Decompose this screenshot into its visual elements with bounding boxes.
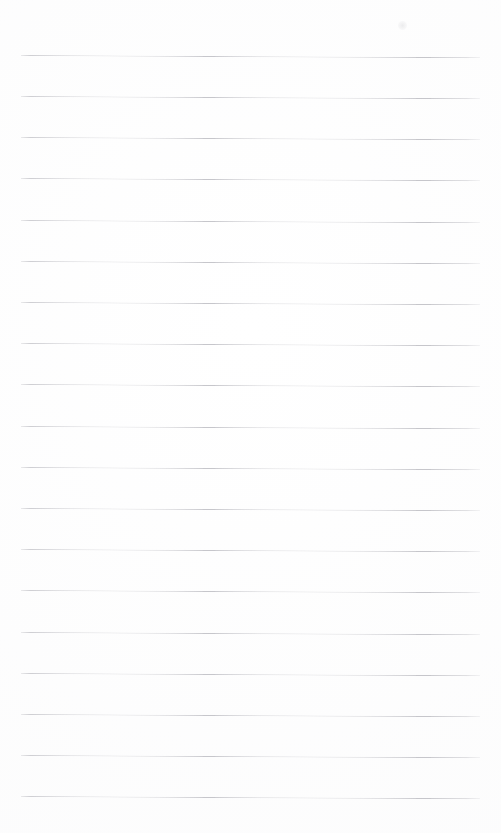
ruled-line[interactable]: [21, 220, 480, 223]
ruled-line[interactable]: [21, 632, 480, 635]
ruled-line[interactable]: [21, 261, 480, 264]
ruled-line[interactable]: [21, 137, 480, 140]
ruled-line[interactable]: [21, 178, 480, 181]
ruled-line[interactable]: [21, 55, 480, 58]
ruled-line[interactable]: [21, 796, 480, 799]
ruled-line[interactable]: [21, 384, 480, 387]
ruled-writing-area[interactable]: [0, 0, 501, 833]
paper-smudge-artifact: [398, 21, 407, 30]
ruled-line[interactable]: [21, 467, 480, 470]
ruled-line[interactable]: [21, 302, 480, 305]
ruled-line[interactable]: [21, 714, 480, 717]
ruled-line[interactable]: [21, 590, 480, 593]
ruled-line[interactable]: [21, 96, 480, 99]
notepad-page: [0, 0, 501, 833]
ruled-line[interactable]: [21, 673, 480, 676]
ruled-line[interactable]: [21, 755, 480, 758]
ruled-line[interactable]: [21, 343, 480, 346]
ruled-line[interactable]: [21, 549, 480, 552]
ruled-line[interactable]: [21, 426, 480, 429]
ruled-line[interactable]: [21, 508, 480, 511]
